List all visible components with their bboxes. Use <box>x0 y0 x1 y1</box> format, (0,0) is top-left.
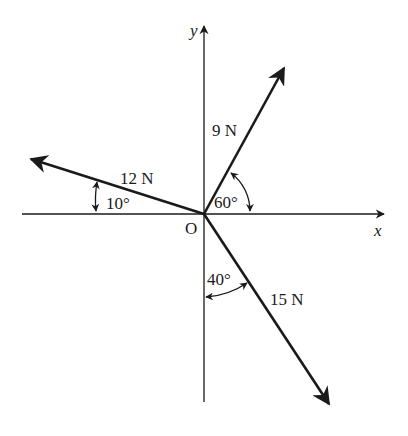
force-diagram: y x O 9 N 60° 12 N 10° 40° 15 N <box>0 0 408 436</box>
force-12n-label: 12 N <box>120 169 154 188</box>
y-axis-label: y <box>188 21 198 40</box>
angle-60-label: 60° <box>214 193 238 212</box>
angle-10-label: 10° <box>106 194 130 213</box>
origin-label: O <box>185 219 197 238</box>
force-15n-label: 15 N <box>270 290 304 309</box>
x-axis-label: x <box>373 221 382 240</box>
force-15n-arrow <box>204 214 329 404</box>
angle-arc-10 <box>95 182 97 211</box>
angle-40-label: 40° <box>207 270 231 289</box>
force-9n-label: 9 N <box>212 121 237 140</box>
diagram-canvas: y x O 9 N 60° 12 N 10° 40° 15 N <box>0 0 408 436</box>
